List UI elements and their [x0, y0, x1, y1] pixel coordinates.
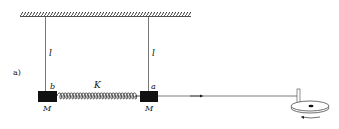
spring-constant-label: K [93, 80, 102, 90]
rotation-arrow-icon [302, 117, 320, 118]
block-right-mass-label: M [144, 104, 154, 113]
diagram-canvas: l l a) b a M M K [0, 0, 339, 129]
ceiling [20, 12, 191, 17]
coupled-pendulum-diagram: l l a) b a M M K [0, 0, 339, 129]
block-right [140, 91, 158, 102]
string-left-length-label: l [49, 48, 52, 58]
block-left-point-label: b [50, 82, 55, 91]
spring [57, 93, 140, 99]
rotating-disk [291, 101, 329, 113]
block-left-mass-label: M [42, 104, 52, 113]
block-right-point-label: a [151, 82, 156, 91]
block-left [38, 91, 57, 102]
panel-label: a) [13, 68, 21, 77]
string-right-length-label: l [152, 48, 155, 58]
